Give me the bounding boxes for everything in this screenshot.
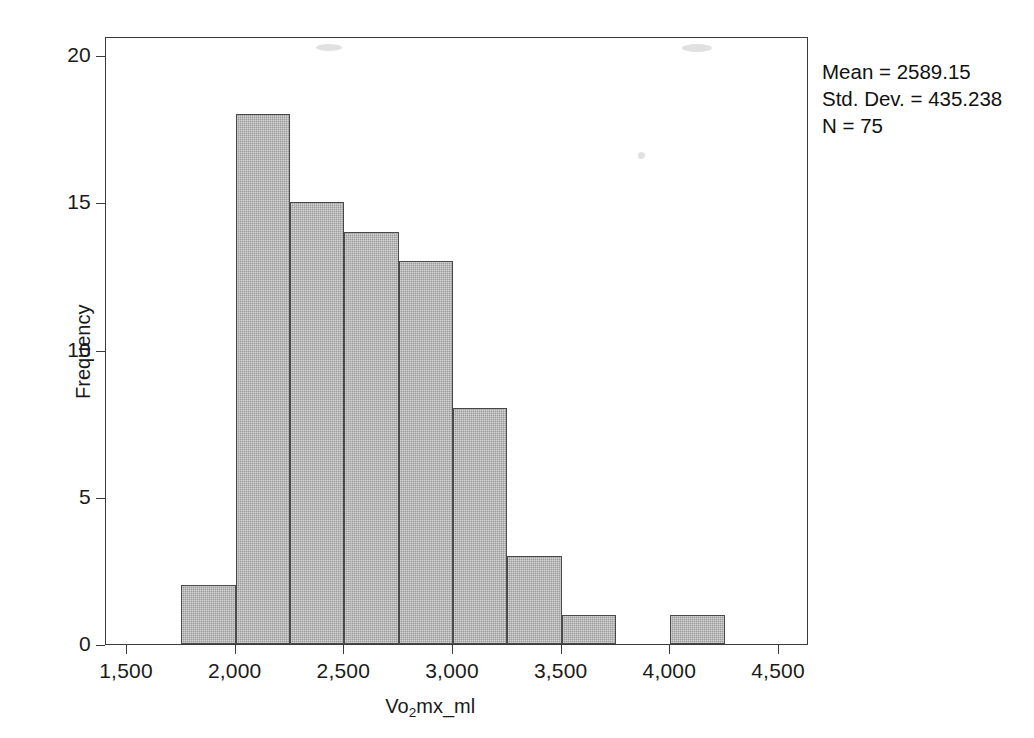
x-axis-tick-mark	[126, 645, 127, 654]
histogram-bar	[453, 408, 507, 644]
x-axis-title: Vo2mx_ml	[310, 695, 550, 718]
x-axis-tick-mark	[561, 645, 562, 654]
x-axis-tick-mark	[343, 645, 344, 654]
y-axis-tick-mark	[96, 203, 105, 204]
statistics-annotation: Mean = 2589.15 Std. Dev. = 435.238 N = 7…	[822, 58, 1002, 139]
y-axis-tick-label: 10	[67, 338, 91, 362]
x-axis-tick-label: 2,000	[185, 659, 285, 683]
y-axis-tick-label: 0	[79, 632, 91, 656]
histogram-bar	[399, 261, 453, 644]
histogram-bar	[236, 114, 290, 644]
x-axis-tick-label: 4,500	[728, 659, 828, 683]
y-axis-tick-mark	[96, 56, 105, 57]
x-axis-tick-label: 1,500	[76, 659, 176, 683]
y-axis-tick-label: 5	[79, 485, 91, 509]
stat-n: N = 75	[822, 112, 1002, 139]
y-axis-tick-label: 20	[67, 43, 91, 67]
x-axis-tick-mark	[669, 645, 670, 654]
y-axis-tick-label: 15	[67, 190, 91, 214]
x-axis-tick-label: 3,500	[511, 659, 611, 683]
x-axis-title-pre: Vo	[385, 695, 408, 717]
stat-mean: Mean = 2589.15	[822, 58, 1002, 85]
x-axis-title-subscript: 2	[409, 705, 417, 720]
x-axis-tick-mark	[452, 645, 453, 654]
x-axis-tick-mark	[235, 645, 236, 654]
histogram-figure: Frequency 05101520 1,5002,0002,5003,0003…	[0, 0, 1034, 738]
histogram-bar	[181, 585, 235, 644]
plot-frame	[105, 37, 808, 645]
histogram-bar	[290, 202, 344, 644]
x-axis-title-post: mx_ml	[416, 695, 475, 717]
x-axis-tick-label: 2,500	[293, 659, 393, 683]
stat-std-dev: Std. Dev. = 435.238	[822, 85, 1002, 112]
histogram-bar	[344, 232, 398, 644]
y-axis-tick-mark	[96, 351, 105, 352]
y-axis-tick-mark	[96, 498, 105, 499]
x-axis-tick-label: 4,000	[619, 659, 719, 683]
x-axis-tick-mark	[778, 645, 779, 654]
histogram-bar	[507, 556, 561, 644]
y-axis-tick-mark	[96, 645, 105, 646]
plot-area	[106, 38, 807, 644]
histogram-bar	[670, 615, 724, 644]
x-axis-tick-label: 3,000	[402, 659, 502, 683]
histogram-bar	[562, 615, 616, 644]
